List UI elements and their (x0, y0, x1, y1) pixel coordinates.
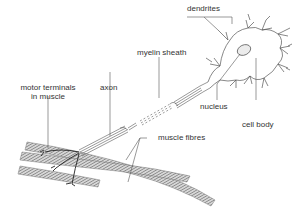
label-myelin-sheath: myelin sheath (137, 48, 186, 57)
motor-neuron-diagram: dendrites myelin sheath axon motor termi… (0, 0, 296, 208)
label-motor-terminals-line1: motor terminals (13, 83, 83, 92)
label-motor-terminals-line2: in muscle (13, 92, 83, 101)
label-axon: axon (100, 83, 117, 92)
label-muscle-fibres: muscle fibres (158, 133, 205, 142)
neuron-illustration (0, 0, 296, 208)
axon (79, 82, 210, 156)
label-nucleus: nucleus (200, 102, 228, 111)
nucleus-shape (236, 43, 253, 58)
label-dendrites: dendrites (187, 4, 220, 13)
label-cell-body: cell body (242, 120, 274, 129)
label-motor-terminals: motor terminals in muscle (13, 83, 83, 101)
